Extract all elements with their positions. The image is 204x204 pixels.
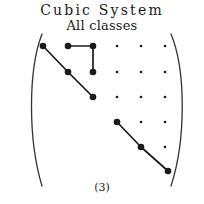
edge-lower-diagonal-a: [117, 122, 141, 147]
edge-upper-diagonal-b: [68, 72, 93, 97]
lattice-point-p-r3c4: [116, 96, 119, 99]
lattice-point-p-r2c5: [140, 71, 143, 74]
lattice-point-p-r1c3: [90, 43, 97, 50]
lattice-point-p-r5c5: [138, 144, 145, 151]
lattice-point-p-r1c4: [116, 45, 119, 48]
bracket-right: [171, 34, 182, 186]
lattice-point-p-r2c6: [164, 71, 167, 74]
lattice-point-p-r1c1: [40, 43, 47, 50]
bracket-left: [32, 34, 43, 186]
lattice-point-p-r6c6: [165, 168, 172, 175]
lattice-point-p-r4c6: [164, 121, 167, 124]
lattice-diagram: [0, 0, 204, 204]
lattice-point-p-r3c3: [90, 94, 97, 101]
lattice-point-p-r2c4: [116, 71, 119, 74]
lattice-point-p-r4c5: [140, 121, 143, 124]
lattice-point-p-r1c6: [164, 45, 167, 48]
edge-lower-diagonal-b: [141, 147, 168, 171]
lattice-point-p-r4c4: [114, 119, 121, 126]
connectors-group: [43, 46, 168, 171]
cubic-system-figure: Cubic System All classes (3): [0, 0, 204, 204]
lattice-point-p-r1c5: [140, 45, 143, 48]
lattice-point-p-r1c2: [65, 43, 72, 50]
edge-upper-diagonal-a: [43, 46, 68, 72]
lattice-point-p-r3c5: [140, 96, 143, 99]
lattice-point-p-r2c2: [65, 69, 72, 76]
lattice-point-p-r3c6: [164, 96, 167, 99]
figure-caption: (3): [0, 181, 204, 194]
lattice-point-p-r2c3: [90, 69, 97, 76]
lattice-point-p-r5c6: [164, 146, 167, 149]
